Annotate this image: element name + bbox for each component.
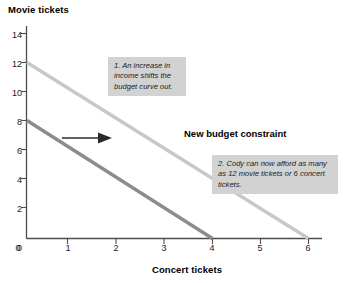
plot-area <box>0 0 352 283</box>
callout-income-shift: 1. An increase in income shifts the budg… <box>108 57 186 96</box>
x-axis-ticks <box>68 239 309 245</box>
y-axis-ticks <box>21 34 27 208</box>
shift-arrow-icon <box>62 133 112 144</box>
callout-affordability: 2. Cody can now afford as many as 12 mov… <box>212 155 338 194</box>
new-budget-constraint-label: New budget constraint <box>184 128 286 139</box>
budget-constraint-chart: Movie tickets Concert tickets 14 12 10 8… <box>0 0 352 283</box>
